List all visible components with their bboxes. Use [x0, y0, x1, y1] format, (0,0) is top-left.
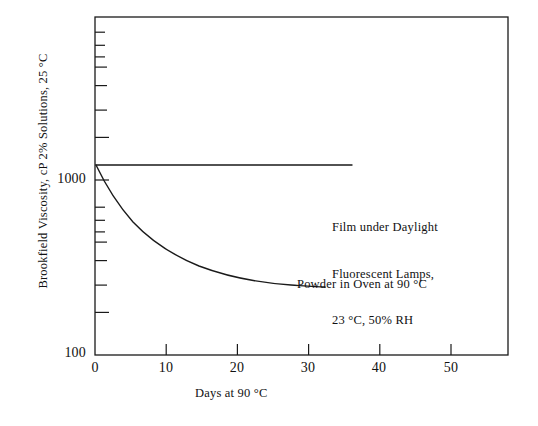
y-tick-label-1000: 1000: [38, 171, 86, 187]
annotation-powder-in-oven: Powder in Oven at 90 °C: [297, 277, 427, 293]
x-tick-label-50: 50: [434, 360, 468, 376]
x-tick-label-10: 10: [149, 360, 183, 376]
x-axis-title: Days at 90 °C: [195, 386, 268, 401]
y-tick-label-100: 100: [38, 345, 86, 361]
x-tick-label-30: 30: [291, 360, 325, 376]
x-tick-label-20: 20: [220, 360, 254, 376]
annotation-film-line-1: Film under Daylight: [332, 220, 438, 236]
viscosity-stability-chart: Brookfield Viscosity, cP 2% Solutions, 2…: [0, 0, 538, 426]
x-tick-label-40: 40: [362, 360, 396, 376]
x-tick-label-0: 0: [78, 360, 112, 376]
annotation-film-line-3: 23 °C, 50% RH: [332, 313, 438, 329]
annotation-film-under-daylight: Film under Daylight Fluorescent Lamps, 2…: [332, 189, 438, 360]
